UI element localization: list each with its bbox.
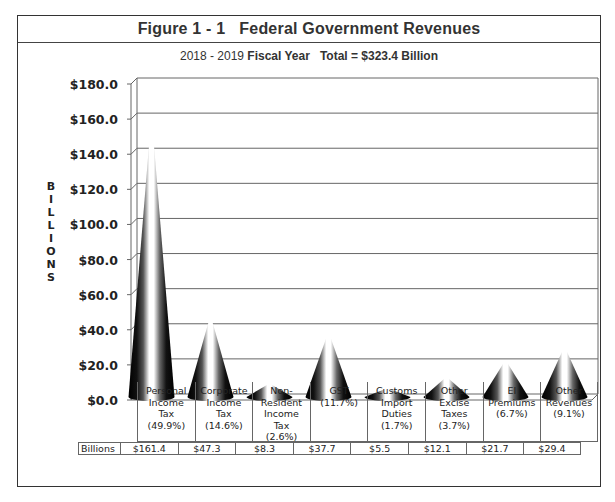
category-label: Personal Income Tax (49.9%) xyxy=(137,382,195,442)
category-label: EI Premiums (6.7%) xyxy=(483,382,541,442)
row-header-billions: Billions xyxy=(78,442,120,455)
value-cell: $37.7 xyxy=(293,442,351,455)
value-cell: $12.1 xyxy=(408,442,466,455)
value-cell: $21.7 xyxy=(466,442,524,455)
value-row: Billions$161.4$47.3$8.3$37.7$5.5$12.1$21… xyxy=(78,442,581,455)
category-label: Non- Resident Income Tax (2.6%) xyxy=(252,382,310,442)
value-cell: $8.3 xyxy=(235,442,293,455)
category-label: Other Excise Taxes (3.7%) xyxy=(425,382,483,442)
cone-bar xyxy=(129,115,175,401)
category-label: Corporate Income Tax (14.6%) xyxy=(195,382,253,442)
gridlines xyxy=(127,78,598,400)
value-cell: $161.4 xyxy=(120,442,178,455)
cone-bars xyxy=(129,115,588,401)
value-cell: $29.4 xyxy=(523,442,581,455)
category-label: GST (11.7%) xyxy=(310,382,368,442)
category-label: Customs Import Duties (1.7%) xyxy=(367,382,425,442)
category-label: Other Revenues (9.1%) xyxy=(540,382,598,442)
value-cell: $5.5 xyxy=(350,442,408,455)
value-cell: $47.3 xyxy=(178,442,236,455)
category-labels: Personal Income Tax (49.9%)Corporate Inc… xyxy=(120,382,598,442)
